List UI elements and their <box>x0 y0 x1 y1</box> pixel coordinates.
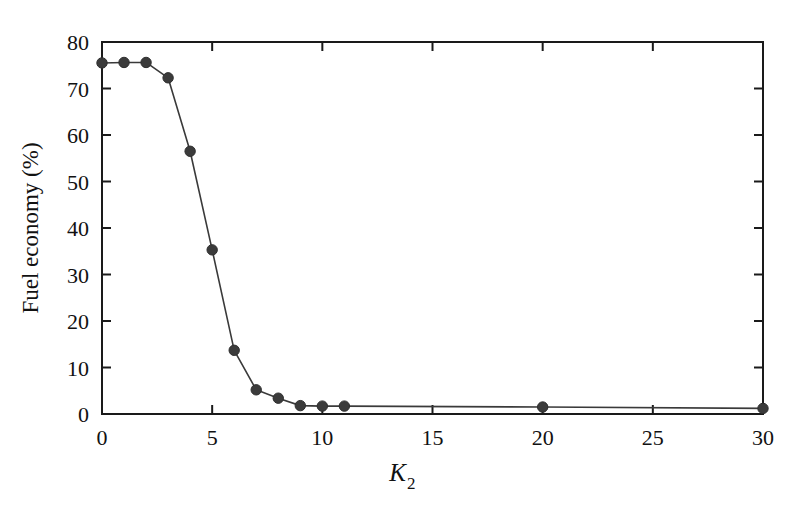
y-tick-label: 20 <box>67 309 89 334</box>
y-tick-label: 60 <box>67 123 89 148</box>
x-tick-label: 0 <box>97 425 108 450</box>
data-point-marker <box>251 385 261 395</box>
data-point-marker <box>97 58 107 68</box>
data-point-marker <box>207 245 217 255</box>
data-point-marker <box>758 403 768 413</box>
y-tick-label: 70 <box>67 77 89 102</box>
x-axis-title-base: K <box>388 459 407 486</box>
y-tick-label: 10 <box>67 356 89 381</box>
x-tick-label: 25 <box>642 425 664 450</box>
y-tick-label: 80 <box>67 30 89 55</box>
data-point-marker <box>537 402 547 412</box>
y-tick-label: 50 <box>67 170 89 195</box>
data-point-marker <box>185 146 195 156</box>
x-tick-label: 20 <box>532 425 554 450</box>
chart-background <box>0 0 811 509</box>
y-axis-title: Fuel economy (%) <box>18 142 43 313</box>
data-point-marker <box>273 393 283 403</box>
data-point-marker <box>317 401 327 411</box>
y-tick-label: 30 <box>67 263 89 288</box>
fuel-economy-line-chart: 051015202530 01020304050607080 Fuel econ… <box>0 0 811 509</box>
y-axis-tick-labels: 01020304050607080 <box>67 30 89 427</box>
y-tick-label: 0 <box>78 402 89 427</box>
data-point-marker <box>119 57 129 67</box>
x-tick-label: 15 <box>422 425 444 450</box>
data-point-marker <box>163 73 173 83</box>
chart-figure: 051015202530 01020304050607080 Fuel econ… <box>0 0 811 509</box>
x-tick-label: 30 <box>752 425 774 450</box>
data-point-marker <box>141 57 151 67</box>
data-point-marker <box>229 345 239 355</box>
data-point-marker <box>339 401 349 411</box>
x-tick-label: 10 <box>311 425 333 450</box>
y-tick-label: 40 <box>67 216 89 241</box>
x-axis-title-subscript: 2 <box>407 474 416 493</box>
data-point-marker <box>295 400 305 410</box>
x-tick-label: 5 <box>207 425 218 450</box>
